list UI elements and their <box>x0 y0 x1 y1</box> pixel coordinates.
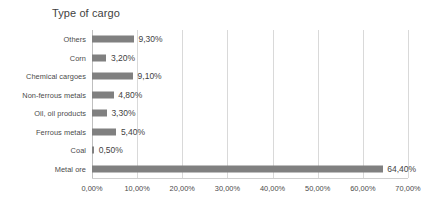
bar-row: 9,30% <box>92 30 408 49</box>
bar[interactable] <box>92 110 107 117</box>
bar-row: 3,30% <box>92 104 408 123</box>
category-label: Corn <box>70 53 86 62</box>
x-tick-label: 10,00% <box>124 184 149 193</box>
bar-row: 64,40% <box>92 160 408 179</box>
category-label: Chemical cargoes <box>26 72 86 81</box>
bar[interactable] <box>92 128 116 135</box>
bar-value-label: 3,20% <box>111 53 135 63</box>
bar-value-label: 9,10% <box>138 71 162 81</box>
bar-row: 4,80% <box>92 86 408 105</box>
bar-row: 3,20% <box>92 49 408 68</box>
x-tick-label: 20,00% <box>170 184 195 193</box>
category-label: Non-ferrous metals <box>22 90 86 99</box>
gridline-7000 <box>408 30 409 178</box>
x-tick-label: 30,00% <box>215 184 240 193</box>
x-tick-label: 70,00% <box>395 184 420 193</box>
category-label: Coal <box>71 146 86 155</box>
bar[interactable] <box>92 73 133 80</box>
x-tick-label: 40,00% <box>260 184 285 193</box>
bar-value-label: 4,80% <box>118 90 142 100</box>
bar-chart: Type of cargo 9,30%3,20%9,10%4,80%3,30%5… <box>0 0 438 216</box>
category-label: Oil, oil products <box>34 109 86 118</box>
bar[interactable] <box>92 91 114 98</box>
bar-value-label: 9,30% <box>138 34 162 44</box>
bar[interactable] <box>92 147 94 154</box>
category-axis-line <box>92 178 408 179</box>
bar[interactable] <box>92 54 106 61</box>
x-tick-label: 0,00% <box>81 184 102 193</box>
category-label: Others <box>64 35 86 44</box>
bar[interactable] <box>92 36 134 43</box>
bar-row: 9,10% <box>92 67 408 86</box>
bar-row: 5,40% <box>92 123 408 142</box>
bar-value-label: 64,40% <box>387 164 416 174</box>
category-label: Metal ore <box>55 164 86 173</box>
x-tick-label: 50,00% <box>305 184 330 193</box>
bar-row: 0,50% <box>92 141 408 160</box>
bar-value-label: 3,30% <box>111 108 135 118</box>
bar-value-label: 5,40% <box>121 127 145 137</box>
plot-area: 9,30%3,20%9,10%4,80%3,30%5,40%0,50%64,40… <box>92 30 408 178</box>
bar-value-label: 0,50% <box>99 145 123 155</box>
chart-title: Type of cargo <box>52 7 120 19</box>
x-tick-label: 60,00% <box>350 184 375 193</box>
bar[interactable] <box>92 165 383 172</box>
category-label: Ferrous metals <box>36 127 86 136</box>
